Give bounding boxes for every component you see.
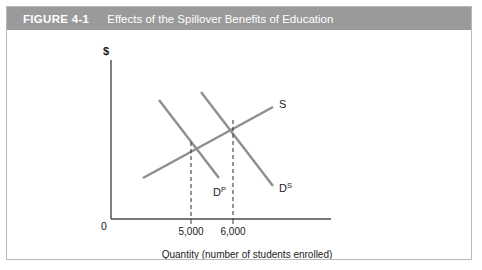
social-demand-label-base: D: [279, 182, 287, 194]
social-demand-curve-label: DS: [279, 181, 292, 194]
supply-curve-label: S: [279, 98, 286, 110]
figure-title-label: Effects of the Spillover Benefits of Edu…: [107, 13, 333, 25]
x-tick-label-5000: 5,000: [178, 226, 203, 237]
social-demand-label-superscript: S: [287, 181, 292, 190]
x-tick-label-6000: 6,000: [220, 226, 245, 237]
private-demand-curve-label: DP: [213, 185, 226, 198]
social-demand-curve: [201, 92, 273, 186]
supply-curve: [143, 107, 273, 178]
supply-demand-chart: $ 0 5,000 6,000 S DP DS Quantity (number…: [7, 30, 471, 259]
x-axis-caption: Quantity (number of students enrolled): [162, 249, 333, 259]
figure-header-banner: FIGURE 4-1 Effects of the Spillover Bene…: [7, 7, 471, 30]
origin-label: 0: [101, 220, 107, 232]
private-demand-label-base: D: [213, 186, 221, 198]
y-axis-label: $: [103, 45, 109, 57]
chart-plot-area: $ 0 5,000 6,000 S DP DS Quantity (number…: [7, 30, 471, 259]
figure-container: FIGURE 4-1 Effects of the Spillover Bene…: [6, 6, 472, 260]
private-demand-curve: [159, 100, 219, 178]
figure-number-label: FIGURE 4-1: [23, 13, 89, 25]
private-demand-label-superscript: P: [221, 185, 226, 194]
